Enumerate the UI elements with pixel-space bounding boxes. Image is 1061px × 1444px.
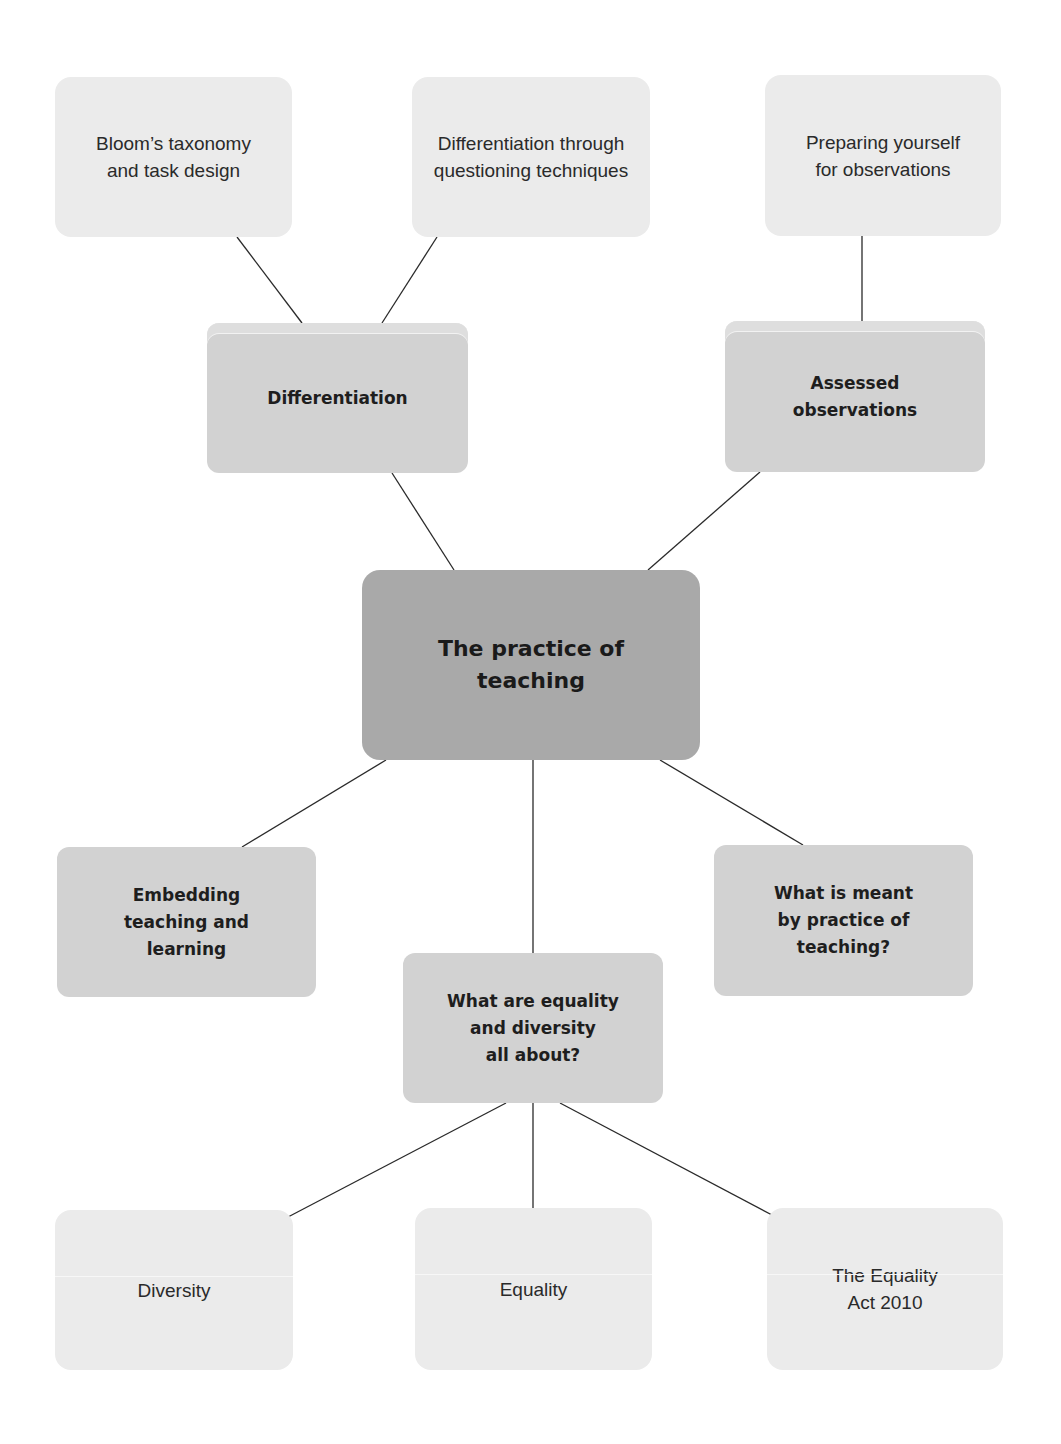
node-label: Assessed observations (793, 370, 917, 424)
node-differentiation: Differentiation (207, 323, 468, 473)
connector-equality-diversity-diversity (288, 1103, 506, 1217)
connector-equality-diversity-act (560, 1103, 772, 1215)
central-label: The practice of teaching (438, 633, 624, 697)
node-diversity: Diversity (55, 1210, 293, 1370)
mind-map-canvas: Bloom’s taxonomy and task design Differe… (0, 0, 1061, 1444)
node-equality-diversity: What are equality and diversity all abou… (403, 953, 663, 1103)
node-label: The Equality Act 2010 (832, 1262, 938, 1316)
node-label: Embedding teaching and learning (124, 882, 249, 963)
node-label: What is meant by practice of teaching? (774, 880, 913, 961)
node-differentiation-questioning: Differentiation through questioning tech… (412, 77, 650, 237)
node-label: Bloom’s taxonomy and task design (96, 130, 251, 184)
node-label: Differentiation through questioning tech… (434, 130, 628, 184)
connector-central-embedding (242, 760, 386, 847)
connector-differentiation-central (392, 473, 454, 570)
connector-central-meaning (660, 760, 803, 845)
node-equality: Equality (415, 1208, 652, 1370)
node-preparing-observations: Preparing yourself for observations (765, 75, 1001, 236)
node-equality-act-2010: The Equality Act 2010 (767, 1208, 1003, 1370)
node-embedding-teaching-learning: Embedding teaching and learning (57, 847, 316, 997)
node-assessed-observations: Assessed observations (725, 321, 985, 472)
node-what-is-meant: What is meant by practice of teaching? (714, 845, 973, 996)
node-label: Equality (500, 1276, 568, 1303)
node-label: Differentiation (267, 385, 407, 412)
node-label: Preparing yourself for observations (806, 129, 960, 183)
node-blooms-taxonomy: Bloom’s taxonomy and task design (55, 77, 292, 237)
connector-blooms-differentiation (237, 237, 302, 323)
node-label: What are equality and diversity all abou… (447, 988, 619, 1069)
connector-assessed-central (648, 472, 760, 570)
connector-questioning-differentiation (382, 237, 437, 323)
node-label: Diversity (138, 1277, 211, 1304)
node-central-practice-of-teaching: The practice of teaching (362, 570, 700, 760)
